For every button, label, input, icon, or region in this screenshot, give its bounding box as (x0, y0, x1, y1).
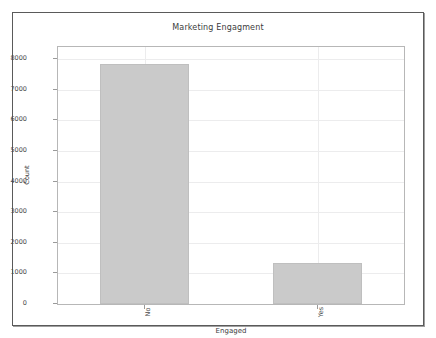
y-tick-mark (53, 272, 57, 273)
bar-yes (273, 263, 363, 304)
y-gridline (58, 304, 404, 305)
y-tick-label: 3000 (10, 207, 27, 215)
figure-frame: Marketing Engagment 01000200030004000500… (12, 12, 424, 326)
y-tick-label: 6000 (10, 115, 27, 123)
y-gridline (58, 59, 404, 60)
chart-title: Marketing Engagment (13, 23, 423, 32)
plot-area (57, 46, 405, 305)
y-tick-mark (53, 211, 57, 212)
y-tick-label: 1000 (10, 268, 27, 276)
y-tick-mark (53, 119, 57, 120)
x-axis-label: Engaged (57, 327, 405, 335)
y-tick-mark (53, 181, 57, 182)
x-tick-label: Yes (317, 307, 325, 318)
x-tick-label: No (144, 308, 152, 317)
y-tick-mark (53, 303, 57, 304)
y-tick-label: 5000 (10, 146, 27, 154)
y-axis-label: Count (23, 165, 31, 184)
y-tick-mark (53, 58, 57, 59)
y-tick-mark (53, 150, 57, 151)
y-tick-label: 7000 (10, 85, 27, 93)
y-tick-label: 8000 (10, 54, 27, 62)
y-tick-label: 2000 (10, 238, 27, 246)
y-tick-mark (53, 89, 57, 90)
y-tick-label: 0 (23, 299, 27, 307)
y-tick-mark (53, 242, 57, 243)
bar-no (100, 64, 190, 304)
